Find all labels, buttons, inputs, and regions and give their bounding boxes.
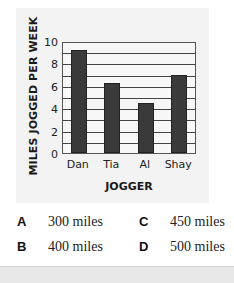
choice-text: 450 miles (170, 214, 225, 230)
y-tick-label: 2 (38, 125, 58, 138)
choice-text: 300 miles (48, 214, 103, 230)
x-category-label: Tia (103, 158, 119, 171)
bar-al (138, 103, 154, 153)
choice-letter: A (17, 214, 26, 229)
y-tick-label: 6 (38, 80, 58, 93)
bar-dan (71, 50, 87, 153)
x-category-label: Dan (67, 158, 89, 171)
bottom-band (0, 266, 234, 283)
choice-text: 400 miles (48, 239, 103, 255)
y-tick-label: 8 (38, 58, 58, 71)
y-tick-label: 4 (38, 103, 58, 116)
x-category-label: Al (139, 158, 150, 171)
choice-letter: B (17, 239, 26, 254)
x-axis-label: JOGGER (105, 180, 153, 193)
choice-letter: D (139, 239, 148, 254)
bar-shay (171, 75, 187, 153)
choice-letter: C (139, 214, 148, 229)
bar-tia (104, 83, 120, 153)
y-tick-label: 10 (38, 36, 58, 49)
plot-area (62, 42, 196, 154)
y-tick-label: 0 (38, 148, 58, 161)
choice-text: 500 miles (170, 239, 225, 255)
x-category-label: Shay (165, 158, 192, 171)
